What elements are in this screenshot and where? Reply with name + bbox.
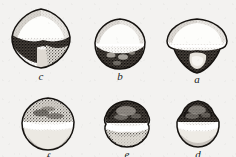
specimen-drawing-a: [166, 18, 228, 74]
specimen-drawing-e: [103, 100, 151, 148]
figure-caption-c: c: [10, 70, 72, 82]
figure-caption-e: e: [103, 148, 151, 157]
figure-caption-f: f: [21, 151, 75, 157]
figure-f: f: [21, 97, 75, 155]
specimen-drawing-c: [10, 8, 72, 70]
specimen-drawing-d: [175, 100, 221, 148]
figure-caption-a: a: [166, 73, 228, 85]
specimen-drawing-f: [21, 97, 75, 151]
specimen-plate: c: [0, 0, 236, 157]
figure-caption-b: b: [94, 70, 146, 82]
figure-d: d: [175, 100, 221, 155]
figure-a: a: [166, 18, 228, 88]
figure-b: b: [94, 18, 146, 88]
figure-caption-d: d: [175, 148, 221, 157]
figure-e: e: [103, 100, 151, 155]
figure-c: c: [10, 8, 72, 88]
specimen-drawing-b: [94, 18, 146, 70]
